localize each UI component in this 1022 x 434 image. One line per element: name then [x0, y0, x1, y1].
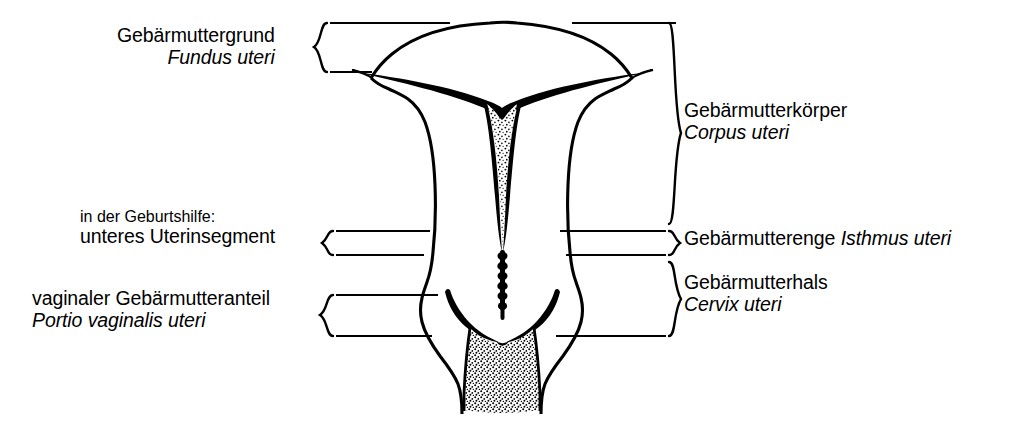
- label-corpus-german: Gebärmutterkörper: [684, 100, 847, 122]
- label-obstetric-note: in der Geburtshilfe:: [80, 208, 275, 226]
- label-portio-german: vaginaler Gebärmutteranteil: [32, 288, 270, 310]
- label-cervix-latin: Cervix uteri: [684, 294, 828, 316]
- uterine-cavity: [356, 72, 648, 320]
- label-corpus: Gebärmutterkörper Corpus uteri: [684, 100, 847, 144]
- label-fundus-german: Gebärmuttergrund: [117, 25, 275, 47]
- label-isthmus-german: Gebärmutterenge: [684, 227, 835, 249]
- label-corpus-latin: Corpus uteri: [684, 122, 847, 144]
- label-portio: vaginaler Gebärmutteranteil Portio vagin…: [32, 288, 270, 332]
- label-fundus-latin: Fundus uteri: [117, 47, 275, 69]
- label-fundus: Gebärmuttergrund Fundus uteri: [117, 25, 275, 69]
- label-isthmus: Gebärmutterenge Isthmus uteri: [684, 228, 951, 250]
- portio-body: [464, 328, 540, 413]
- label-cervix: Gebärmutterhals Cervix uteri: [684, 272, 828, 316]
- brace-obstetric: [322, 231, 333, 255]
- uterus-contour-left: [371, 78, 462, 414]
- brace-fundus: [314, 23, 327, 72]
- label-cervix-german: Gebärmutterhals: [684, 272, 828, 294]
- brace-isthmus: [669, 231, 680, 255]
- label-lower-uterine-segment: in der Geburtshilfe: unteres Uterinsegme…: [80, 208, 275, 248]
- figure-canvas: Gebärmuttergrund Fundus uteri in der Geb…: [0, 0, 1022, 434]
- brace-portio: [320, 295, 333, 336]
- brace-corpus: [669, 23, 681, 224]
- label-obstetric-german: unteres Uterinsegment: [80, 226, 275, 248]
- label-portio-latin: Portio vaginalis uteri: [32, 310, 270, 332]
- cervical-canal: [497, 250, 507, 320]
- brace-cervix: [669, 262, 681, 336]
- label-isthmus-latin: Isthmus uteri: [841, 227, 951, 249]
